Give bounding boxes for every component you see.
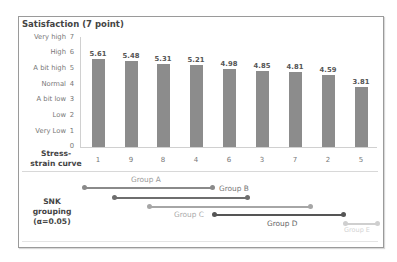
category-label: 7 <box>285 156 305 164</box>
bar-value-label: 4.81 <box>280 63 310 71</box>
group-b-end-dot <box>245 195 250 200</box>
y-tick: 6 <box>68 48 76 56</box>
bar <box>355 87 368 147</box>
bar <box>256 71 269 147</box>
group-a-start-dot <box>82 185 87 190</box>
bar-value-label: 5.48 <box>116 52 146 60</box>
bar-value-label: 5.21 <box>181 56 211 64</box>
snk-grouping-title: SNK grouping (α=0.05) <box>22 197 82 227</box>
snk-title-line: (α=0.05) <box>22 217 82 227</box>
bar <box>322 75 335 147</box>
bar <box>190 65 203 147</box>
x-axis-line <box>80 147 377 148</box>
group-b-start-dot <box>112 195 117 200</box>
y-tick: 7 <box>68 33 76 41</box>
group-d-line <box>214 214 344 216</box>
bottom-divider <box>22 241 378 242</box>
category-label: 2 <box>318 156 338 164</box>
bar-value-label: 3.81 <box>346 78 376 86</box>
bar <box>125 61 138 147</box>
x-axis-title-line: strain curve <box>26 159 86 169</box>
category-label: 8 <box>153 156 173 164</box>
y-tick: 5 <box>68 64 76 72</box>
category-label: 6 <box>219 156 239 164</box>
group-d-start-dot <box>212 212 217 217</box>
group-d-end-dot <box>341 212 346 217</box>
y-level-label: Very high <box>14 33 66 41</box>
y-level-label: A bit high <box>14 64 66 72</box>
bar <box>92 59 105 147</box>
group-b-label: Group B <box>219 184 249 193</box>
x-axis-title: Stress- strain curve <box>26 149 86 169</box>
group-c-end-dot <box>308 204 313 209</box>
snk-title-line: SNK <box>22 197 82 207</box>
group-a-line <box>84 187 212 189</box>
bar-value-label: 5.31 <box>148 55 178 63</box>
bar <box>157 64 170 147</box>
group-c-label: Group C <box>174 210 204 219</box>
group-e-end-dot <box>375 221 380 226</box>
y-level-label: Normal <box>14 80 66 88</box>
bar-value-label: 4.85 <box>247 62 277 70</box>
y-level-label: High <box>14 48 66 56</box>
y-tick: 3 <box>68 95 76 103</box>
category-label: 5 <box>351 156 371 164</box>
y-level-label: A bit low <box>14 95 66 103</box>
snk-title-line: grouping <box>22 207 82 217</box>
group-a-label: Group A <box>131 175 161 184</box>
group-b-line <box>114 197 248 199</box>
category-label: 9 <box>121 156 141 164</box>
y-level-label: Low <box>14 111 66 119</box>
bar-value-label: 5.61 <box>83 50 113 58</box>
y-axis-line <box>80 37 81 148</box>
bar <box>289 72 302 147</box>
category-label: 1 <box>88 156 108 164</box>
section-divider <box>22 171 378 172</box>
group-c-line <box>149 206 311 208</box>
bar-value-label: 4.59 <box>313 66 343 74</box>
group-e-label: Group E <box>344 226 370 234</box>
group-c-start-dot <box>147 204 152 209</box>
x-axis-title-line: Stress- <box>26 149 86 159</box>
y-level-label: Very Low <box>14 127 66 135</box>
group-a-end-dot <box>210 185 215 190</box>
bar-value-label: 4.98 <box>214 60 244 68</box>
group-d-label: Group D <box>267 219 298 228</box>
chart-title: Satisfaction (7 point) <box>22 19 124 29</box>
y-tick: 1 <box>68 127 76 135</box>
category-label: 3 <box>252 156 272 164</box>
category-label: 4 <box>186 156 206 164</box>
y-tick: 2 <box>68 111 76 119</box>
group-e-line <box>345 223 378 225</box>
bar <box>223 69 236 147</box>
y-tick: 4 <box>68 80 76 88</box>
